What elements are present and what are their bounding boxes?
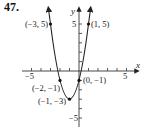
point-label-0-neg1: (0, −1) (83, 75, 106, 85)
point-label-vertex: (−1, −3) (38, 96, 66, 106)
point-neg3-5 (49, 22, 52, 25)
parabola-graph: y x −5 5 5 −5 (−3, 5) (1, 5) (−2, −1) (0… (0, 0, 144, 133)
x-tick-label-5: 5 (123, 71, 127, 81)
point-neg2-neg1 (58, 79, 61, 82)
curve-arrow-left (49, 9, 51, 24)
point-label-1-5: (1, 5) (91, 19, 110, 29)
point-1-5 (87, 22, 90, 25)
x-axis-label: x (135, 60, 140, 70)
point-label-neg2-neg1: (−2, −1) (32, 83, 60, 93)
y-tick-label-neg5: −5 (69, 113, 78, 123)
x-tick-label-neg5: −5 (25, 71, 34, 81)
y-axis-label: y (70, 6, 75, 16)
y-tick-label-5: 5 (72, 19, 76, 29)
point-label-neg3-5: (−3, 5) (25, 19, 48, 29)
point-vertex (68, 98, 71, 101)
point-0-neg1 (77, 79, 80, 82)
